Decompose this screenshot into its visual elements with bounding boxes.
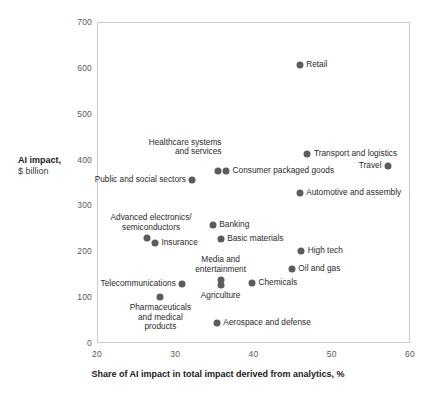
data-point[interactable] — [217, 235, 224, 242]
data-point-label: Travel — [359, 161, 382, 171]
data-point-label: Telecommunications — [101, 279, 176, 289]
y-axis-tick: 300 — [66, 200, 92, 210]
data-point-label: Banking — [219, 220, 249, 230]
y-axis-title-line1: AI impact, — [18, 155, 96, 166]
x-axis-tick: 50 — [327, 349, 337, 359]
y-axis-title-line2: $ billion — [18, 166, 96, 177]
x-axis-tick: 60 — [405, 349, 415, 359]
data-point[interactable] — [248, 279, 255, 286]
y-axis-tick: 100 — [66, 292, 92, 302]
data-point-label: Basic materials — [227, 234, 283, 244]
data-point[interactable] — [209, 222, 216, 229]
data-point[interactable] — [304, 151, 311, 158]
data-point[interactable] — [296, 62, 303, 69]
data-point-label: Oil and gas — [298, 264, 340, 274]
data-point[interactable] — [144, 234, 151, 241]
data-point[interactable] — [179, 280, 186, 287]
data-point-label: High tech — [308, 246, 343, 256]
data-point[interactable] — [217, 282, 224, 289]
data-point[interactable] — [213, 319, 220, 326]
y-axis-tick: 700 — [66, 17, 92, 27]
y-axis-tick: 600 — [66, 63, 92, 73]
x-axis-tick: 30 — [170, 349, 180, 359]
data-point[interactable] — [214, 167, 221, 174]
y-axis-title: AI impact, $ billion — [18, 155, 96, 177]
data-point[interactable] — [157, 294, 164, 301]
data-point[interactable] — [223, 167, 230, 174]
data-point-label: Transport and logistics — [314, 149, 397, 159]
data-point-label: Advanced electronics/ semiconductors — [110, 213, 191, 232]
data-point-label: Chemicals — [258, 278, 297, 288]
data-point-label: Pharmaceuticals and medical products — [130, 303, 191, 332]
data-point-label: Automotive and assembly — [306, 188, 401, 198]
data-point-label: Insurance — [161, 238, 197, 248]
x-axis-tick: 40 — [249, 349, 259, 359]
data-point[interactable] — [288, 265, 295, 272]
data-point[interactable] — [298, 247, 305, 254]
data-point-label: Aerospace and defense — [223, 318, 311, 328]
y-axis-tick: 200 — [66, 246, 92, 256]
y-axis: 0100200300400500600700 — [62, 22, 92, 343]
x-axis: 2030405060 — [0, 349, 436, 363]
data-point-label: Retail — [306, 60, 327, 70]
data-point-label: Public and social sectors — [95, 175, 186, 185]
y-axis-tick: 500 — [66, 109, 92, 119]
data-point-label: Agriculture — [201, 291, 241, 301]
data-point[interactable] — [385, 162, 392, 169]
data-point-label: Media and entertainment — [195, 255, 246, 274]
data-point-label: Healthcare systems and services — [149, 138, 222, 157]
data-point[interactable] — [296, 190, 303, 197]
x-axis-title: Share of AI impact in total impact deriv… — [0, 369, 436, 379]
scatter-chart: 0100200300400500600700 2030405060 AI imp… — [0, 0, 436, 396]
data-point[interactable] — [151, 240, 158, 247]
data-point[interactable] — [189, 177, 196, 184]
y-axis-tick: 0 — [66, 338, 92, 348]
x-axis-tick: 20 — [92, 349, 102, 359]
data-point-label: Consumer packaged goods — [233, 166, 334, 176]
